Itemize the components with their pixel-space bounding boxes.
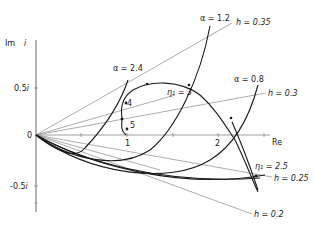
label-point-5: 5 (130, 121, 135, 130)
ray-upper-extra (36, 95, 175, 135)
point-arrow-3 (230, 117, 233, 120)
label-alpha-08: α = 0.8 (234, 75, 264, 84)
label-alpha-12: α = 1.2 (200, 14, 230, 23)
y-axis-unit: i (24, 39, 27, 48)
point-arrow-1 (146, 83, 149, 86)
curve-eta-3 (121, 83, 258, 192)
h-rays (36, 23, 272, 214)
x-tick-label-1: 1 (125, 139, 130, 148)
label-h-035: h = 0.35 (236, 18, 271, 27)
y-tick-label-pos: 0.5i (14, 84, 30, 93)
ray-lower-extra (36, 135, 160, 170)
label-h-03: h = 0.3 (268, 89, 298, 98)
axes (34, 40, 270, 212)
label-h-02: h = 0.2 (254, 210, 284, 219)
ray-h-03 (36, 93, 266, 135)
label-eta-3: η₁ = 3 (167, 88, 192, 97)
label-alpha-24: α = 2.4 (113, 64, 143, 73)
curve-lower-1 (36, 135, 260, 179)
label-point-4: 4 (127, 99, 132, 108)
label-eta-25: η₁ = 2.5 (255, 162, 288, 171)
origin-label: 0 (27, 131, 32, 140)
ray-h-035 (36, 23, 232, 135)
root-locus-diagram: Im i Re 0 1 2 0.5i -0.5i (0, 0, 314, 230)
y-axis-label: Im (5, 39, 15, 48)
curve-eta-25 (232, 122, 258, 190)
point-eta-25 (254, 174, 257, 177)
point-5 (126, 128, 129, 131)
curve-alpha-08 (36, 85, 258, 174)
label-h-025: h = 0.25 (274, 174, 309, 183)
x-axis-label: Re (272, 138, 282, 147)
point-arrow-2 (188, 84, 191, 87)
point-mid (121, 118, 124, 121)
y-tick-label-neg: -0.5i (10, 182, 29, 191)
x-tick-label-2: 2 (215, 139, 220, 148)
